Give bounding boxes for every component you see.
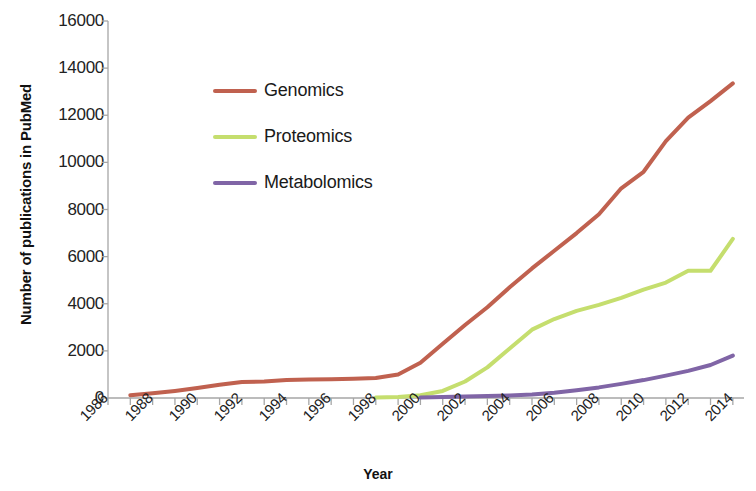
- legend-label: Metabolomics: [264, 172, 373, 193]
- legend-color-swatch: [213, 89, 257, 93]
- chart-legend: GenomicsProteomicsMetabolomics: [213, 80, 373, 193]
- line-chart: Number of publications in PubMed 0200040…: [0, 0, 756, 491]
- legend-item[interactable]: Genomics: [213, 80, 373, 101]
- x-axis-title: Year: [0, 466, 756, 482]
- legend-color-swatch: [213, 135, 257, 139]
- legend-label: Proteomics: [264, 126, 352, 147]
- legend-color-swatch: [213, 181, 257, 185]
- series-line-metabolomics: [420, 356, 732, 398]
- legend-item[interactable]: Metabolomics: [213, 172, 373, 193]
- legend-label: Genomics: [264, 80, 343, 101]
- legend-item[interactable]: Proteomics: [213, 126, 373, 147]
- plot-area: [0, 0, 756, 491]
